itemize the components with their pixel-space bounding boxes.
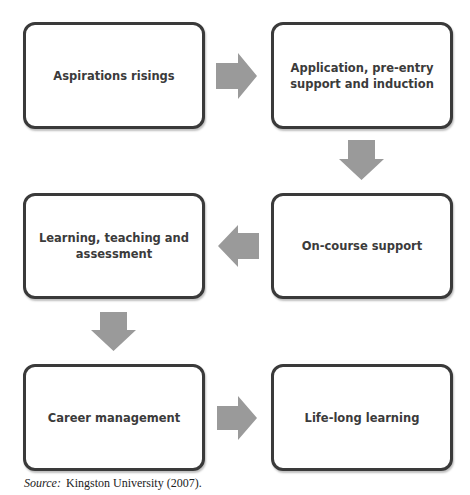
step-life-long-learning: Life-long learning [271, 364, 453, 471]
step-label: Career management [38, 410, 190, 426]
source-caption: Source:Kingston University (2007). [24, 476, 202, 491]
arrow-right-icon [216, 53, 258, 101]
step-label: Life-long learning [295, 410, 430, 426]
step-learning-teaching-assessment: Learning, teaching and assessment [23, 193, 205, 299]
step-on-course-support: On-course support [271, 193, 453, 299]
arrow-left-icon [218, 225, 260, 269]
source-label: Source: [24, 476, 66, 491]
step-application-induction: Application, pre-entry support and induc… [271, 22, 453, 129]
step-label: Application, pre-entry support and induc… [274, 60, 450, 92]
step-aspirations-rising: Aspirations risings [23, 22, 205, 129]
step-label: On-course support [292, 238, 433, 254]
step-label: Aspirations risings [43, 68, 184, 84]
step-career-management: Career management [23, 364, 205, 471]
arrow-right-icon [217, 396, 259, 442]
arrow-down-icon [91, 312, 137, 353]
arrow-down-icon [339, 140, 385, 182]
source-text: Kingston University (2007). [66, 476, 202, 490]
step-label: Learning, teaching and assessment [26, 230, 202, 262]
